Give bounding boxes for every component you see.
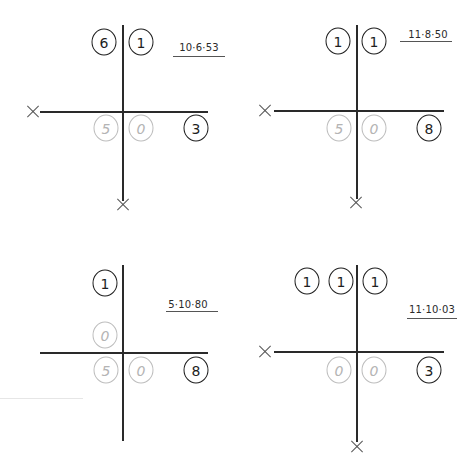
date-underline xyxy=(407,318,457,319)
bead-lower-1: 0 xyxy=(327,357,352,384)
cross-mark-left-icon xyxy=(258,345,272,359)
bead-upper-1: 1 xyxy=(295,268,320,295)
horizontal-axis xyxy=(274,351,444,353)
bead-upper-2: 1 xyxy=(329,268,354,295)
cross-mark-bottom-icon xyxy=(350,440,364,454)
bead-upper-3: 1 xyxy=(363,268,388,295)
bead-lower-2: 0 xyxy=(362,357,387,384)
vertical-axis xyxy=(356,265,358,442)
bead-lower-3: 3 xyxy=(417,357,442,384)
date-label: 11·10·03 xyxy=(409,304,455,315)
diagram-panel-bottom-right: 1 1 1 0 0 3 11·10·03 xyxy=(0,0,476,473)
